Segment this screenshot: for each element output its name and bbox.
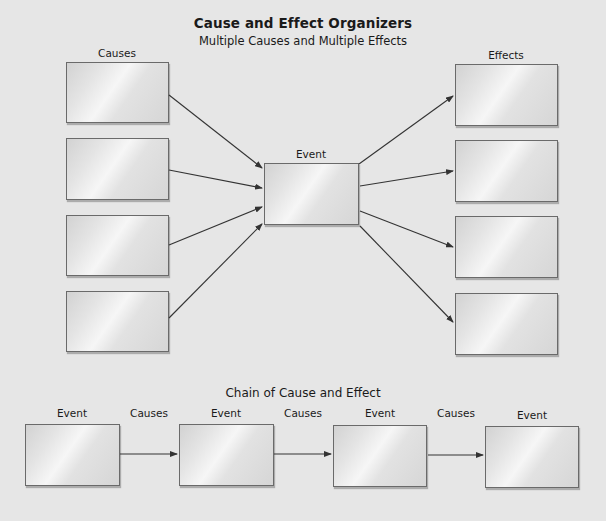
arrow-cause3-to-event bbox=[169, 207, 262, 245]
arrow-event-to-effect4 bbox=[360, 226, 453, 322]
arrow-event-to-effect1 bbox=[359, 96, 453, 164]
arrow-event-to-effect2 bbox=[360, 171, 453, 186]
arrow-cause2-to-event bbox=[169, 170, 262, 188]
arrow-event-to-effect3 bbox=[360, 211, 453, 247]
arrow-cause4-to-event bbox=[169, 224, 262, 318]
connector-arrows bbox=[0, 0, 606, 521]
arrow-cause1-to-event bbox=[169, 95, 262, 168]
